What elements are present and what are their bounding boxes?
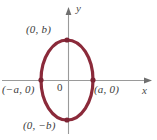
vertex-dot-right [90,77,95,82]
y-axis-label: y [76,3,81,14]
label-origin: 0 [57,82,63,93]
label-bottom-vertex: (0, −b) [23,120,56,131]
x-axis-label: x [142,85,147,96]
label-left-vertex: (−a, 0) [2,84,35,95]
x-axis-arrow-icon [144,78,152,84]
label-top-vertex: (0, b) [26,24,51,35]
label-right-vertex: (a, 0) [94,84,119,95]
vertex-dot-bottom [64,117,69,122]
vertex-dot-top [64,37,69,42]
vertex-dot-left [38,77,43,82]
ellipse-figure: (0, b) (0, −b) (−a, 0) (a, 0) 0 y x [0,0,157,140]
y-axis-arrow-icon [66,7,72,15]
